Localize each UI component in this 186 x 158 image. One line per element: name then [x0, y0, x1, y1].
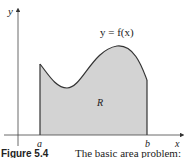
y-axis-label: y	[8, 6, 13, 17]
figure-number: Figure 5.4	[1, 149, 48, 158]
area-diagram	[0, 0, 186, 158]
curve-label: y = f(x)	[100, 27, 134, 38]
region-label: R	[97, 98, 103, 108]
figure-caption: The basic area problem:	[75, 148, 181, 158]
region-r-fill	[40, 46, 147, 135]
